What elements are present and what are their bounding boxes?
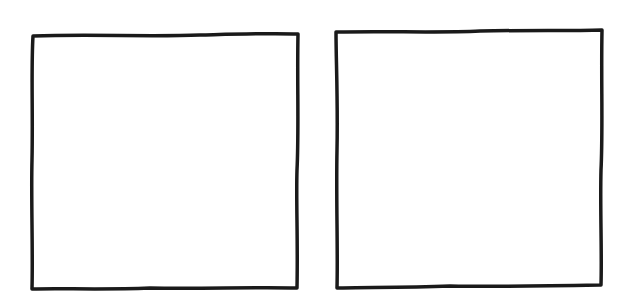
background [0,0,634,306]
diagram-canvas [0,0,634,306]
